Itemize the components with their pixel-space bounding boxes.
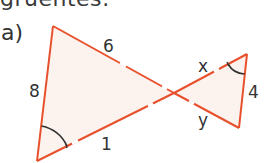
label-6: 6: [103, 36, 114, 56]
right-triangle: [174, 54, 247, 128]
label-y: y: [198, 110, 208, 130]
label-x: x: [198, 56, 208, 76]
label-4: 4: [248, 82, 259, 102]
label-8: 8: [29, 81, 40, 101]
angle-tick: [66, 144, 67, 148]
triangles-diagram: 6 8 1 x y 4: [0, 0, 265, 163]
label-1: 1: [101, 134, 112, 154]
